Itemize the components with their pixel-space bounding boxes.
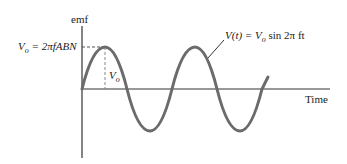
emf-graph xyxy=(0,0,347,164)
equation-leader-line xyxy=(208,40,224,58)
y-axis-label: emf xyxy=(71,14,88,25)
equation-label: V(t) = Vo sin 2π ft xyxy=(225,30,305,44)
peak-value-label: Vo = 2πfABN xyxy=(18,41,77,55)
amplitude-label: Vo xyxy=(109,70,120,84)
x-axis-label: Time xyxy=(305,94,328,105)
